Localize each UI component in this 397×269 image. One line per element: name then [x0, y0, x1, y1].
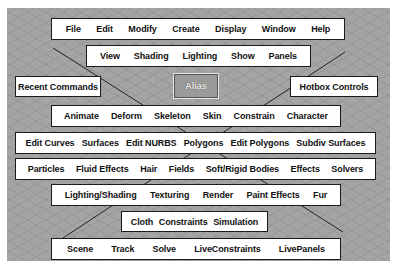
menu-view[interactable]: View — [100, 51, 120, 61]
animation-menu-row: Animate Deform Skeleton Skin Constrain C… — [51, 105, 341, 127]
menu-edit-curves[interactable]: Edit Curves — [26, 138, 75, 148]
main-menu-row: File Edit Modify Create Display Window H… — [51, 18, 345, 40]
menu-surfaces[interactable]: Surfaces — [82, 138, 119, 148]
menu-fur[interactable]: Fur — [313, 190, 327, 200]
hotbox-controls-button[interactable]: Hotbox Controls — [290, 76, 378, 97]
cloth-menu-row: Cloth Constraints Simulation — [121, 211, 268, 232]
alias-label: Alias — [185, 81, 207, 91]
recent-commands-label: Recent Commands — [18, 82, 98, 92]
menu-deform[interactable]: Deform — [111, 111, 142, 121]
menu-track[interactable]: Track — [111, 244, 134, 254]
view-menu-row: View Shading Lighting Show Panels — [86, 45, 311, 67]
menu-constraints[interactable]: Constraints — [159, 217, 208, 227]
menu-simulation[interactable]: Simulation — [213, 217, 258, 227]
menu-help[interactable]: Help — [311, 24, 330, 34]
menu-particles[interactable]: Particles — [28, 164, 65, 174]
menu-edit[interactable]: Edit — [96, 24, 113, 34]
alias-center-button[interactable]: Alias — [173, 73, 219, 99]
menu-skeleton[interactable]: Skeleton — [154, 111, 191, 121]
menu-polygons[interactable]: Polygons — [184, 138, 224, 148]
menu-fluid-effects[interactable]: Fluid Effects — [76, 164, 129, 174]
menu-file[interactable]: File — [66, 24, 81, 34]
menu-edit-nurbs[interactable]: Edit NURBS — [126, 138, 177, 148]
menu-display[interactable]: Display — [215, 24, 246, 34]
recent-commands-button[interactable]: Recent Commands — [15, 76, 101, 97]
hotbox-controls-label: Hotbox Controls — [300, 82, 369, 92]
menu-create[interactable]: Create — [172, 24, 199, 34]
menu-effects[interactable]: Effects — [291, 164, 320, 174]
modeling-menu-row: Edit Curves Surfaces Edit NURBS Polygons… — [15, 132, 376, 154]
menu-window[interactable]: Window — [262, 24, 296, 34]
menu-paint-effects[interactable]: Paint Effects — [247, 190, 300, 200]
rendering-menu-row: Lighting/Shading Texturing Render Paint … — [51, 184, 341, 206]
menu-edit-polygons[interactable]: Edit Polygons — [231, 138, 290, 148]
menu-panels[interactable]: Panels — [269, 51, 297, 61]
menu-soft-rigid-bodies[interactable]: Soft/Rigid Bodies — [206, 164, 279, 174]
menu-modify[interactable]: Modify — [128, 24, 156, 34]
menu-solve[interactable]: Solve — [152, 244, 176, 254]
menu-shading[interactable]: Shading — [134, 51, 169, 61]
menu-show[interactable]: Show — [231, 51, 255, 61]
menu-texturing[interactable]: Texturing — [150, 190, 189, 200]
menu-live-panels[interactable]: LivePanels — [279, 244, 325, 254]
menu-hair[interactable]: Hair — [140, 164, 157, 174]
menu-scene[interactable]: Scene — [67, 244, 93, 254]
menu-render[interactable]: Render — [203, 190, 233, 200]
menu-solvers[interactable]: Solvers — [331, 164, 363, 174]
menu-lighting[interactable]: Lighting — [182, 51, 217, 61]
menu-fields[interactable]: Fields — [169, 164, 194, 174]
menu-cloth[interactable]: Cloth — [131, 217, 154, 227]
menu-constrain[interactable]: Constrain — [234, 111, 275, 121]
menu-animate[interactable]: Animate — [64, 111, 99, 121]
menu-live-constraints[interactable]: LiveConstraints — [194, 244, 261, 254]
menu-lighting-shading[interactable]: Lighting/Shading — [65, 190, 137, 200]
menu-subdiv-surfaces[interactable]: Subdiv Surfaces — [296, 138, 365, 148]
dynamics-menu-row: Particles Fluid Effects Hair Fields Soft… — [15, 158, 376, 180]
menu-character[interactable]: Character — [287, 111, 328, 121]
menu-skin[interactable]: Skin — [203, 111, 222, 121]
live-menu-row: Scene Track Solve LiveConstraints LivePa… — [51, 238, 341, 260]
